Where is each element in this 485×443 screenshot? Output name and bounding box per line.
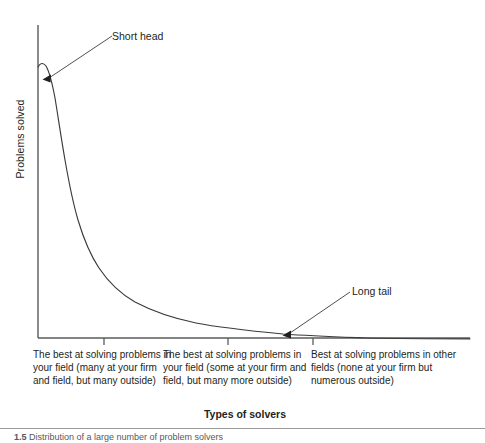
short-head-arrow-icon <box>43 75 52 83</box>
short-head-leader-line <box>49 36 112 78</box>
annotation-long-tail: Long tail <box>352 285 392 297</box>
x-axis-title: Types of solvers <box>160 408 330 420</box>
annotation-short-head: Short head <box>112 30 163 42</box>
distribution-curve <box>38 63 470 338</box>
caption-divider <box>0 428 485 429</box>
x-category-label-1: The best at solving problems in your fie… <box>33 348 173 387</box>
x-category-label-2: The best at solving problems in your fie… <box>163 348 311 387</box>
long-tail-leader-line <box>290 292 350 333</box>
figure-caption: 1.5 Distribution of a large number of pr… <box>14 432 474 443</box>
figure-caption-text: Distribution of a large number of proble… <box>29 432 223 442</box>
figure-caption-number: 1.5 <box>14 432 27 442</box>
x-category-label-3: Best at solving problems in other fields… <box>311 348 461 387</box>
y-axis-title: Problems solved <box>14 74 26 204</box>
